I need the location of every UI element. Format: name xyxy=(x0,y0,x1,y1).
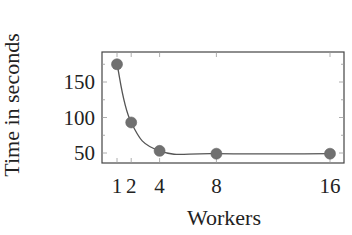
data-point xyxy=(325,148,336,159)
plot-border xyxy=(102,52,344,163)
y-tick-label: 100 xyxy=(64,106,96,130)
data-line xyxy=(117,64,330,154)
x-tick-label: 1 xyxy=(112,174,123,198)
y-tick-label: 50 xyxy=(74,141,95,165)
x-tick-label: 8 xyxy=(211,174,222,198)
x-axis-label: Workers xyxy=(187,205,261,230)
x-tick-label: 2 xyxy=(126,174,137,198)
data-point xyxy=(154,145,165,156)
data-point xyxy=(211,148,222,159)
x-tick-labels: 124816 xyxy=(112,174,341,198)
data-point xyxy=(126,117,137,128)
y-tick-labels: 50100150 xyxy=(64,70,96,165)
x-tick-label: 4 xyxy=(154,174,165,198)
plot-frame xyxy=(102,52,344,163)
y-tick-label: 150 xyxy=(64,70,96,94)
x-tick-label: 16 xyxy=(320,174,341,198)
line-chart: 124816 50100150 Workers Time in seconds xyxy=(0,0,352,235)
data-point xyxy=(112,59,123,70)
axis-ticks xyxy=(102,52,344,163)
y-axis-label: Time in seconds xyxy=(0,33,24,176)
